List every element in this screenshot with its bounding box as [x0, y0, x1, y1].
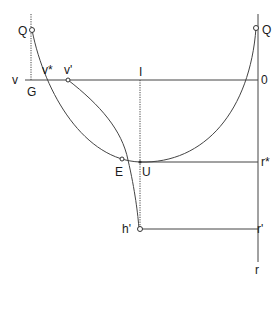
diagram: Q Q v G v* v' I 0 E U r* h' r' r	[0, 0, 279, 316]
label-zero: 0	[261, 73, 268, 87]
label-e: E	[115, 165, 123, 179]
label-v-star: v*	[42, 63, 53, 77]
point-q-right	[254, 26, 259, 31]
label-i: I	[139, 65, 142, 79]
label-q-right: Q	[262, 23, 271, 37]
point-u	[138, 160, 141, 163]
label-u: U	[142, 165, 151, 179]
indifference-curve	[32, 28, 256, 162]
point-v-prime	[66, 78, 70, 82]
label-g: G	[27, 85, 36, 99]
point-q-left	[30, 28, 35, 33]
label-v-prime: v'	[64, 63, 72, 77]
point-h-prime	[138, 227, 143, 232]
label-r: r	[255, 263, 259, 277]
label-r-prime: r'	[257, 222, 263, 236]
point-e	[120, 157, 124, 161]
adjustment-curve	[68, 80, 139, 229]
label-v: v	[12, 73, 18, 87]
label-r-star: r*	[261, 155, 270, 169]
label-h-prime: h'	[122, 222, 131, 236]
label-q-left: Q	[18, 24, 27, 38]
